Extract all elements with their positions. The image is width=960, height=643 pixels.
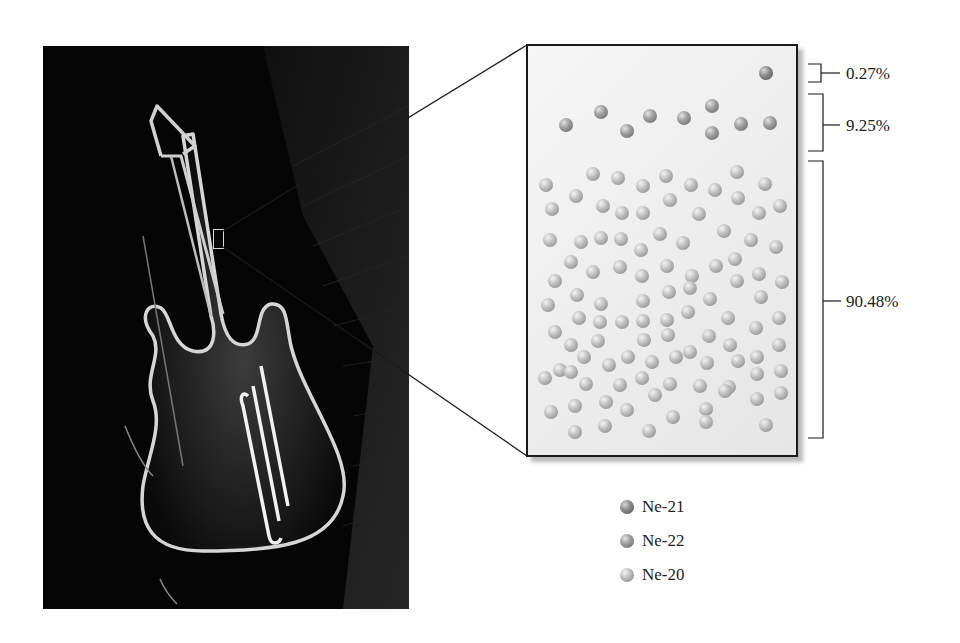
ne20-atom [564,365,578,379]
ne20-atom [772,311,786,325]
ne20-atom [615,206,629,220]
ne20-atom [594,231,608,245]
ne20-atom [769,240,783,254]
ne20-atom [613,260,627,274]
ne20-atom [660,259,674,273]
ne20-atom [636,206,650,220]
ne20-atom [723,338,737,352]
ne20-atom [539,178,553,192]
ne20-atom [620,403,634,417]
ne22-atom [643,109,657,123]
ne22-atom [705,99,719,113]
ne20-atom [611,171,625,185]
ne20-atom [613,378,627,392]
ne22-atom [763,116,777,130]
ne22-atom [705,126,719,140]
ne20-atom [648,388,662,402]
ne20-atom [594,297,608,311]
ne20-atom [599,395,613,409]
ne20-atom [718,384,732,398]
legend-label: Ne-20 [642,565,684,585]
ne20-atom [569,189,583,203]
ne20-atom [663,193,677,207]
ne20-atom [593,315,607,329]
ne20-atom [596,199,610,213]
ne20-atom [579,377,593,391]
ne20-atom [731,354,745,368]
ne20-atom [684,178,698,192]
ne20-atom [693,379,707,393]
ne20-atom [568,425,582,439]
ne20-atom [621,350,635,364]
ne20-atom [699,402,713,416]
ne20-atom [661,328,675,342]
neon-guitar-illustration [43,46,409,609]
ne20-atom [708,183,722,197]
ne22-atom [677,111,691,125]
ne20-atom [642,424,656,438]
ne20-atom [699,415,713,429]
ne20-atom [602,358,616,372]
ne22-atom [620,124,634,138]
ne20-atom [635,371,649,385]
ne22-atom [734,117,748,131]
ne20-atom [744,233,758,247]
ne20-atom [544,405,558,419]
ne20-atom [717,224,731,238]
ne20-atom [645,355,659,369]
ne20-atom [660,313,674,327]
ne20-atom [541,298,555,312]
ne20-atom [545,202,559,216]
ne20-atom [700,356,714,370]
ne20-atom [730,165,744,179]
ne20-atom [548,274,562,288]
ne20-atom [662,285,676,299]
ne20-atom [636,294,650,308]
ne20-atom [570,288,584,302]
ne20-atom [634,243,648,257]
ne20-atom [614,232,628,246]
ne20-atom [703,292,717,306]
ne20-atom [721,311,735,325]
ne20-atom [750,350,764,364]
bracket-ne22 [808,94,840,151]
ne20-atom [659,169,673,183]
ne20-atom [676,236,690,250]
ne20-atom [709,259,723,273]
magnification-region-marker [213,229,224,249]
ne20-atom [543,233,557,247]
ne20-atom [572,311,586,325]
ne20-atom [538,371,552,385]
bracket-ne20 [808,161,841,438]
ne20-atom [564,338,578,352]
legend-label: Ne-21 [642,497,684,517]
ne20-atom [754,290,768,304]
legend-label: Ne-22 [642,531,684,551]
bracket-ne21 [808,64,840,82]
ne20-atom [653,227,667,241]
ne21-atom-icon [620,500,634,514]
ne20-atom [663,377,677,391]
ne20-atom [774,386,788,400]
ne20-atom [548,325,562,339]
ne20-atom [731,191,745,205]
ne20-atom [758,177,772,191]
ne20-atom [702,329,716,343]
ne20-atom [752,267,766,281]
ne20-atom [759,418,773,432]
ne20-atom [681,305,695,319]
ne20-atom [752,206,766,220]
percentage-label-ne21: 0.27% [846,65,890,82]
ne20-atom [775,275,789,289]
legend-item-ne22: Ne-22 [620,524,684,558]
ne20-atom [728,252,742,266]
ne20-atom-icon [620,568,634,582]
neon-guitar-photo [43,46,409,609]
ne20-atom [598,419,612,433]
ne20-atom [749,321,763,335]
ne20-atom [635,269,649,283]
ne22-atom [594,105,608,119]
ne20-atom [591,334,605,348]
ne20-atom [637,333,651,347]
ne20-atom [730,274,744,288]
